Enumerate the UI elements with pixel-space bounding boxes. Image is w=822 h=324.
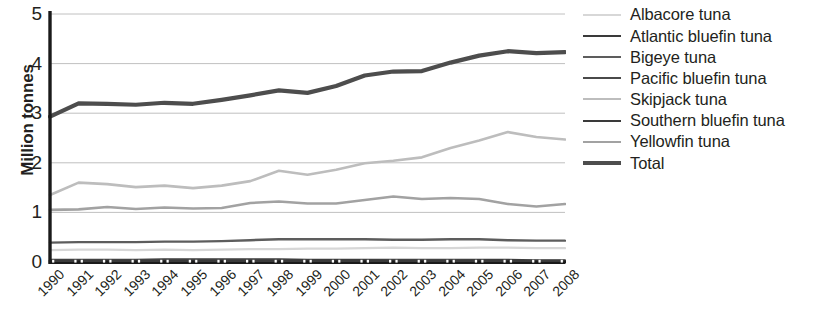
legend-item[interactable]: Pacific bluefin tuna xyxy=(582,68,822,89)
series-line-skipjack-tuna xyxy=(50,132,565,195)
legend-item-label: Pacific bluefin tuna xyxy=(624,70,767,87)
y-axis-tick-labels: 012345 xyxy=(16,0,42,272)
legend-swatch-icon xyxy=(582,152,624,173)
series-line-total xyxy=(50,51,565,116)
legend-item-label: Southern bluefin tuna xyxy=(624,112,785,129)
y-axis-tick-label: 1 xyxy=(22,202,42,221)
legend-item[interactable]: Skipjack tuna xyxy=(582,89,822,110)
legend-swatch-icon xyxy=(582,25,624,46)
legend-item[interactable]: Yellowfin tuna xyxy=(582,131,822,152)
legend-item-label: Atlantic bluefin tuna xyxy=(624,28,772,45)
series-lines xyxy=(50,51,565,261)
series-line-bigeye-tuna xyxy=(50,239,565,242)
legend-swatch-icon xyxy=(582,89,624,110)
y-axis-tick-label: 0 xyxy=(22,252,42,271)
y-axis-tick-label: 5 xyxy=(22,4,42,23)
legend-item[interactable]: Albacore tuna xyxy=(582,4,822,25)
y-axis-tick-label: 4 xyxy=(22,54,42,73)
legend-swatch-icon xyxy=(582,110,624,131)
legend-swatch-icon xyxy=(582,131,624,152)
legend-item[interactable]: Atlantic bluefin tuna xyxy=(582,25,822,46)
x-axis-tick-labels: 1990199119921993199419951996199719981999… xyxy=(48,266,588,324)
legend-item-label: Skipjack tuna xyxy=(624,91,727,108)
series-line-albacore-tuna xyxy=(50,248,565,250)
series-line-yellowfin-tuna xyxy=(50,197,565,210)
y-axis-tick-label: 2 xyxy=(22,153,42,172)
gridlines xyxy=(50,14,565,212)
legend-item[interactable]: Bigeye tuna xyxy=(582,46,822,67)
legend-swatch-icon xyxy=(582,4,624,25)
chart-container: Million tonnes 012345 199019911992199319… xyxy=(0,0,822,324)
chart-legend: Albacore tunaAtlantic bluefin tunaBigeye… xyxy=(582,4,822,174)
legend-item-label: Yellowfin tuna xyxy=(624,133,730,150)
legend-item-label: Albacore tuna xyxy=(624,6,731,23)
legend-swatch-icon xyxy=(582,68,624,89)
legend-item[interactable]: Southern bluefin tuna xyxy=(582,110,822,131)
y-axis-tick-label: 3 xyxy=(22,103,42,122)
legend-item[interactable]: Total xyxy=(582,152,822,173)
legend-item-label: Bigeye tuna xyxy=(624,49,716,66)
legend-swatch-icon xyxy=(582,46,624,67)
line-chart-svg xyxy=(48,8,566,264)
legend-item-label: Total xyxy=(624,155,664,172)
plot-area xyxy=(48,8,566,264)
